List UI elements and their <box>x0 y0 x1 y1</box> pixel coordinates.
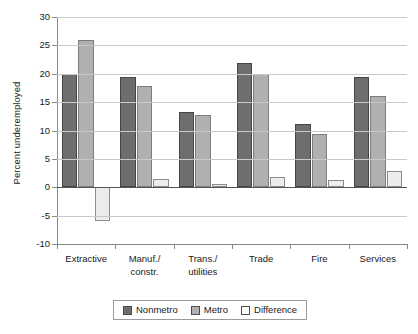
bar-metro-5 <box>370 96 386 187</box>
bar-difference-5 <box>387 171 403 187</box>
legend-label-metro: Metro <box>204 305 228 315</box>
bar-nonmetro-3 <box>237 63 253 187</box>
x-axis-tick-mark <box>232 244 233 249</box>
bar-nonmetro-1 <box>120 77 136 187</box>
gridline <box>57 45 407 46</box>
bar-metro-2 <box>195 115 211 187</box>
x-axis-category-label: Manuf./ constr. <box>115 253 173 278</box>
y-axis-tick-label: 0 <box>6 182 50 192</box>
bar-metro-1 <box>137 86 153 188</box>
gridline <box>57 187 407 188</box>
bar-metro-0 <box>78 40 94 187</box>
y-axis-tick-label: 5 <box>6 154 50 164</box>
x-axis-category-label: Trade <box>232 253 290 266</box>
gridline <box>57 131 407 132</box>
gridline <box>57 102 407 103</box>
bar-metro-4 <box>312 134 328 187</box>
legend-swatch-nonmetro-icon <box>123 306 132 315</box>
y-axis-tick-label: 20 <box>6 69 50 79</box>
y-axis-tick-label: -5 <box>6 211 50 221</box>
y-axis-tick-label: 15 <box>6 97 50 107</box>
x-axis-tick-mark <box>57 244 58 249</box>
bar-nonmetro-4 <box>295 124 311 188</box>
y-axis-tick-label: 25 <box>6 40 50 50</box>
legend-swatch-metro-icon <box>191 306 200 315</box>
bar-nonmetro-5 <box>354 77 370 187</box>
x-axis-tick-mark <box>290 244 291 249</box>
legend-swatch-difference-icon <box>241 306 250 315</box>
legend: Nonmetro Metro Difference <box>113 300 307 320</box>
gridline <box>57 74 407 75</box>
x-axis-tick-mark <box>174 244 175 249</box>
x-axis-tick-mark <box>407 244 408 249</box>
x-axis-tick-mark <box>349 244 350 249</box>
y-axis-tick-label: 30 <box>6 12 50 22</box>
gridline <box>57 17 407 18</box>
gridline <box>57 216 407 217</box>
y-axis-tick-label: 10 <box>6 126 50 136</box>
legend-label-nonmetro: Nonmetro <box>136 305 178 315</box>
x-axis-category-label: Fire <box>290 253 348 266</box>
bar-difference-3 <box>270 177 286 187</box>
gridline <box>57 159 407 160</box>
legend-item-difference: Difference <box>241 305 297 315</box>
bar-chart: Percent underemployed 302520151050-5-10 … <box>0 0 418 334</box>
legend-item-metro: Metro <box>191 305 228 315</box>
x-axis-tick-mark <box>115 244 116 249</box>
legend-label-difference: Difference <box>254 305 297 315</box>
x-axis-category-label: Services <box>349 253 407 266</box>
bar-nonmetro-2 <box>179 112 195 187</box>
bar-difference-1 <box>153 179 169 188</box>
x-axis-category-label: Extractive <box>57 253 115 266</box>
x-axis-category-label: Trans./ utilities <box>174 253 232 278</box>
legend-item-nonmetro: Nonmetro <box>123 305 178 315</box>
y-axis-tick-label: -10 <box>6 239 50 249</box>
